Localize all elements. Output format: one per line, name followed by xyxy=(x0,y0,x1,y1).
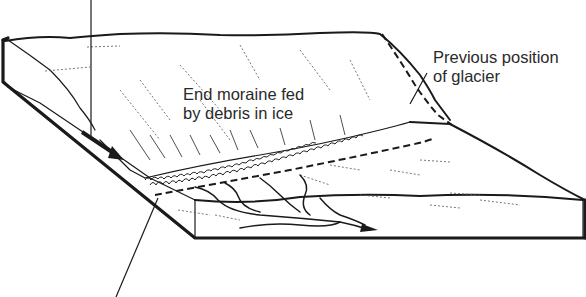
meltwater-streams xyxy=(195,175,378,232)
leader-lines xyxy=(91,0,427,297)
end-moraine xyxy=(145,135,435,195)
end-moraine-label: End moraine fed by debris in ice xyxy=(183,85,304,123)
previous-position-label-line1: Previous position xyxy=(433,48,559,67)
glacier-block-diagram xyxy=(0,0,586,297)
previous-position-label-line2: of glacier xyxy=(433,67,559,86)
glacier-front xyxy=(100,115,410,178)
bottom-leader-line xyxy=(116,198,158,297)
previous-position-label: Previous position of glacier xyxy=(433,48,559,86)
end-moraine-label-line1: End moraine fed xyxy=(183,85,304,104)
ice-flow-arrow xyxy=(82,132,124,160)
end-moraine-label-line2: by debris in ice xyxy=(183,104,304,123)
outwash-plain xyxy=(178,160,520,220)
